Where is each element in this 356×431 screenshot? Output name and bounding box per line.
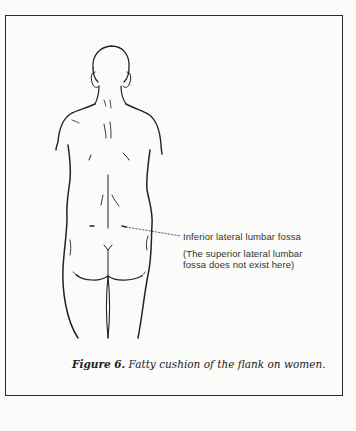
figure-caption: Figure 6. Fatty cushion of the flank on … [72,358,326,370]
inner-left-leg [107,276,109,338]
leader-line [126,227,181,236]
right-shoulder [126,104,162,154]
caption-prefix: Figure 6. [72,358,125,370]
right-torso-contour [138,150,152,338]
annotation-note: (The superior lateral lumbar fossa does … [183,248,303,270]
inner-right-leg [108,276,110,338]
buttocks-fold [76,275,142,280]
head-outline [93,46,129,82]
right-lumbar-dimple [122,226,126,227]
left-ear [91,72,99,87]
annotation-note-line2: fossa does not exist here) [183,259,303,270]
neck-right [121,86,126,104]
neck-left [95,86,99,104]
annotation-note-line1: (The superior lateral lumbar [183,248,303,259]
annotation-label: Inferior lateral lumbar fossa [183,231,301,242]
right-ear [123,72,131,87]
left-shoulder [56,104,95,150]
caption-text: Fatty cushion of the flank on women. [125,358,325,370]
gluteal-cleft [104,245,112,276]
